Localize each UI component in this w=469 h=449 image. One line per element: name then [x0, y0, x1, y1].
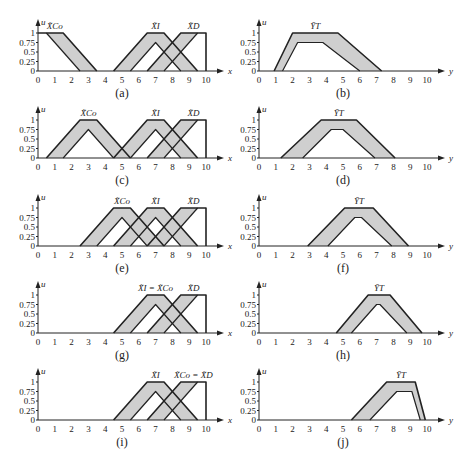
x-tick-label: 3	[307, 337, 312, 347]
x-tick-label: 2	[69, 75, 74, 85]
x-tick-label: 10	[202, 337, 212, 347]
x-tick-label: 2	[69, 250, 74, 260]
x-tick-label: 1	[274, 162, 279, 172]
x-tick-label: 9	[187, 250, 192, 260]
x-tick-label: 9	[408, 250, 413, 260]
y-tick-label: 0	[31, 415, 36, 425]
x-tick-label: 1	[53, 250, 58, 260]
x-tick-label: 10	[423, 337, 433, 347]
x-tick-label: 10	[202, 75, 212, 85]
x-tick-label: 0	[36, 424, 41, 434]
y-tick-label: 0.5	[24, 396, 36, 406]
y-tick-label: 0.75	[240, 38, 256, 48]
x-tick-label: 2	[69, 424, 74, 434]
x-tick-label: 9	[187, 75, 192, 85]
x-tick-label: 7	[153, 424, 158, 434]
x-tick-label: 3	[86, 75, 91, 85]
y-axis-label: u	[41, 366, 46, 376]
x-tick-label: 3	[307, 250, 312, 260]
panel-label: (e)	[115, 261, 128, 275]
x-tick-label: 0	[36, 75, 41, 85]
y-tick-label: 1	[31, 290, 36, 300]
y-tick-label: 0	[31, 153, 36, 163]
x-tick-label: 5	[120, 162, 125, 172]
x-tick-label: 8	[170, 162, 175, 172]
x-tick-label: 5	[120, 424, 125, 434]
x-tick-label: 2	[290, 424, 295, 434]
x-tick-label: 8	[170, 75, 175, 85]
x-tick-label: 0	[257, 250, 262, 260]
panel-g: ux01234567891000.250.50.751X̃I = X̃CoX̃D…	[19, 279, 232, 362]
x-tick-label: 4	[324, 424, 329, 434]
x-tick-label: 4	[103, 337, 108, 347]
y-axis-label: u	[262, 104, 267, 114]
x-axis-label: x	[227, 415, 232, 425]
fou-0	[336, 295, 422, 333]
y-tick-label: 0.25	[19, 232, 35, 242]
panel-label: (g)	[115, 348, 129, 362]
figure-canvas: ux01234567891000.250.50.751X̃CoX̃IX̃D(a)…	[0, 0, 469, 449]
x-tick-label: 4	[324, 337, 329, 347]
set-name-label: X̃Co = X̃D	[173, 370, 213, 380]
x-tick-label: 1	[53, 162, 58, 172]
x-tick-label: 8	[391, 162, 396, 172]
x-axis-arrow-icon	[438, 331, 445, 336]
x-tick-label: 2	[290, 162, 295, 172]
panel-label: (a)	[115, 86, 128, 100]
x-tick-label: 2	[290, 75, 295, 85]
x-tick-label: 8	[170, 337, 175, 347]
x-tick-label: 8	[170, 250, 175, 260]
set-name-label: ỸT	[396, 370, 407, 380]
x-axis-arrow-icon	[438, 69, 445, 74]
panel-b: uy01234567891000.250.50.751ỸT(b)	[240, 17, 453, 100]
x-tick-label: 9	[187, 162, 192, 172]
x-tick-label: 7	[153, 162, 158, 172]
x-tick-label: 7	[374, 337, 379, 347]
y-tick-label: 0.25	[240, 57, 256, 67]
x-tick-label: 3	[307, 424, 312, 434]
set-name-label: ỸT	[310, 21, 321, 31]
y-tick-label: 0	[252, 66, 257, 76]
y-axis-arrow-icon	[257, 194, 262, 201]
x-tick-label: 9	[408, 337, 413, 347]
panel-label: (b)	[336, 86, 350, 100]
y-tick-label: 0.25	[240, 144, 256, 154]
x-tick-label: 5	[120, 75, 125, 85]
y-tick-label: 0.75	[19, 213, 35, 223]
x-axis-label: y	[448, 66, 453, 76]
x-axis-label: y	[448, 328, 453, 338]
y-axis-label: u	[41, 279, 46, 289]
y-axis-label: u	[41, 104, 46, 114]
x-tick-label: 6	[137, 75, 142, 85]
y-axis-label: u	[262, 192, 267, 202]
x-tick-label: 5	[341, 337, 346, 347]
y-tick-label: 1	[31, 115, 36, 125]
x-tick-label: 10	[202, 424, 212, 434]
x-tick-label: 10	[423, 75, 433, 85]
x-tick-label: 7	[153, 250, 158, 260]
y-tick-label: 0.75	[240, 213, 256, 223]
x-tick-label: 9	[187, 337, 192, 347]
y-axis-arrow-icon	[257, 106, 262, 113]
x-tick-label: 1	[274, 337, 279, 347]
x-tick-label: 3	[307, 75, 312, 85]
y-tick-label: 0.25	[240, 319, 256, 329]
y-tick-label: 0.75	[240, 125, 256, 135]
x-tick-label: 10	[423, 162, 433, 172]
y-tick-label: 0.5	[245, 309, 257, 319]
x-tick-label: 0	[36, 337, 41, 347]
x-tick-label: 5	[341, 75, 346, 85]
panel-i: ux01234567891000.250.50.751X̃IX̃Co = X̃D…	[19, 366, 232, 449]
y-tick-label: 0.5	[24, 222, 36, 232]
y-tick-label: 1	[252, 203, 257, 213]
y-tick-label: 0	[31, 66, 36, 76]
y-axis-arrow-icon	[257, 19, 262, 26]
x-tick-label: 4	[103, 162, 108, 172]
x-axis-label: y	[448, 415, 453, 425]
panel-label: (d)	[336, 173, 350, 187]
x-tick-label: 2	[69, 337, 74, 347]
x-tick-label: 10	[202, 250, 212, 260]
x-tick-label: 9	[408, 75, 413, 85]
y-tick-label: 0.75	[240, 387, 256, 397]
x-tick-label: 6	[358, 75, 363, 85]
